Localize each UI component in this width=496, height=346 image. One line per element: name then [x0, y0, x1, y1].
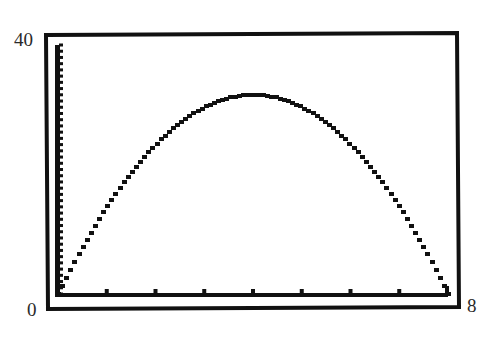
y-axis: [55, 44, 63, 298]
x-max-label: 8: [467, 296, 477, 315]
y-max-label: 40: [14, 30, 33, 49]
parabola-curve: [56, 93, 451, 296]
origin-label: 0: [27, 300, 37, 319]
x-axis: [55, 286, 449, 297]
outer-frame: [46, 33, 459, 309]
calculator-graph-screen: [0, 0, 496, 346]
